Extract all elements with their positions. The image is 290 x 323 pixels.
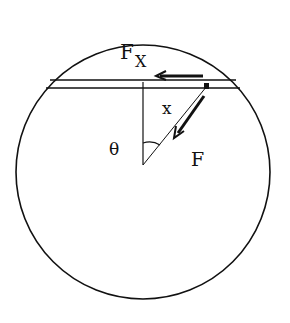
mass-object (204, 83, 209, 89)
angle-arc (143, 142, 160, 145)
diagram-canvas: FX x θ F (0, 0, 290, 323)
fx-arrow-icon (156, 71, 203, 80)
displacement-label: x (162, 98, 172, 118)
force-label: F (191, 148, 204, 170)
angle-label: θ (109, 139, 119, 159)
f-arrow-icon (174, 96, 204, 138)
